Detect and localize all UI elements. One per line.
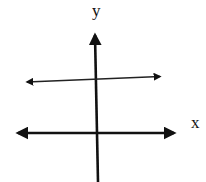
- y-axis: [95, 35, 98, 182]
- horizontal-line: [27, 77, 160, 83]
- coordinate-diagram: y x: [0, 0, 206, 182]
- x-axis-label: x: [191, 113, 200, 132]
- y-axis-label: y: [92, 1, 101, 20]
